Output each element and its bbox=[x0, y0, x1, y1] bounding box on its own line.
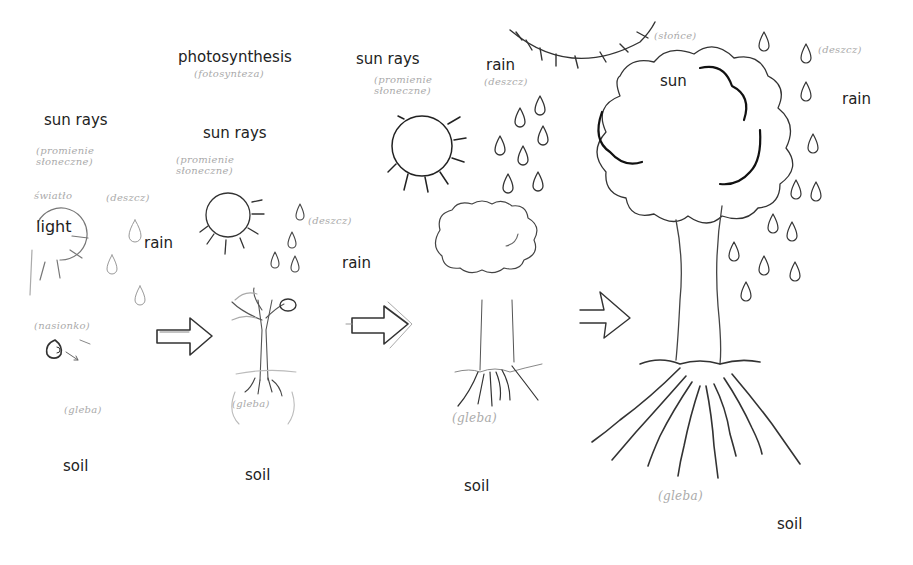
stage2-sun-icon bbox=[200, 193, 264, 254]
stage4-soil-handwritten: (gleba) bbox=[658, 490, 703, 503]
stage1-light-label: light bbox=[36, 219, 71, 235]
stage3-trunk-roots-icon bbox=[455, 300, 542, 406]
stage3-sun-label: sun rays bbox=[356, 52, 420, 67]
stage1-seed-handwritten: (nasionko) bbox=[34, 320, 90, 331]
stage1-sun-handwritten: (promienie słoneczne) bbox=[36, 145, 126, 167]
stage2-photosynthesis-label: photosynthesis bbox=[178, 50, 292, 65]
stage3-soil-label: soil bbox=[464, 479, 489, 494]
stage2-raindrop-icons bbox=[271, 204, 304, 272]
stage1-soil-handwritten: (gleba) bbox=[64, 404, 102, 415]
stage1-raindrop-icons bbox=[107, 220, 145, 305]
stage1-sun-label: sun rays bbox=[44, 113, 108, 128]
stage2-rain-label: rain bbox=[342, 256, 371, 271]
stage2-rain-handwritten: (deszcz) bbox=[308, 215, 352, 226]
stage4-sun-handwritten: (słońce) bbox=[654, 30, 697, 41]
stage4-rain-label: rain bbox=[842, 92, 871, 107]
stage4-sun-icon bbox=[510, 22, 655, 68]
stage2-sun-label: sun rays bbox=[203, 126, 267, 141]
stage2-sun-handwritten: (promienie słoneczne) bbox=[176, 154, 286, 176]
arrow-1-icon bbox=[157, 318, 212, 355]
stage4-trunk-icon bbox=[676, 206, 722, 364]
stage3-sun-handwritten: (promienie słoneczne) bbox=[374, 74, 474, 96]
stage2-soil-handwritten: (gleba) bbox=[232, 398, 270, 409]
stage1-rain-label: rain bbox=[144, 236, 173, 251]
stage1-seed-icon bbox=[47, 340, 90, 360]
stage4-soil-label: soil bbox=[777, 517, 802, 532]
stage4-tree-canopy-icon bbox=[597, 47, 793, 223]
stage3-rain-label: rain bbox=[486, 58, 515, 73]
stage1-soil-label: soil bbox=[63, 459, 88, 474]
stage3-rain-handwritten: (deszcz) bbox=[484, 76, 528, 87]
arrow-2-icon bbox=[346, 302, 412, 348]
stage4-raindrop-icons bbox=[729, 32, 821, 301]
stage3-cloud-canopy-icon bbox=[435, 201, 536, 273]
stage3-raindrop-icons bbox=[495, 96, 548, 193]
stage1-light-handwritten: światło bbox=[34, 190, 72, 201]
stage4-roots-icon bbox=[592, 360, 800, 478]
stage2-photosynthesis-handwritten: (fotosynteza) bbox=[194, 68, 264, 79]
diagram-canvas: sun rays (promienie słoneczne) światło l… bbox=[0, 0, 913, 565]
stage1-rain-handwritten: (deszcz) bbox=[106, 192, 150, 203]
stage4-sun-label: sun bbox=[660, 74, 687, 89]
arrow-3-icon bbox=[580, 292, 630, 338]
stage3-soil-handwritten: (gleba) bbox=[452, 412, 497, 425]
stage4-rain-handwritten: (deszcz) bbox=[818, 44, 862, 55]
stage3-sun-icon bbox=[388, 116, 466, 192]
stage2-soil-label: soil bbox=[245, 468, 270, 483]
